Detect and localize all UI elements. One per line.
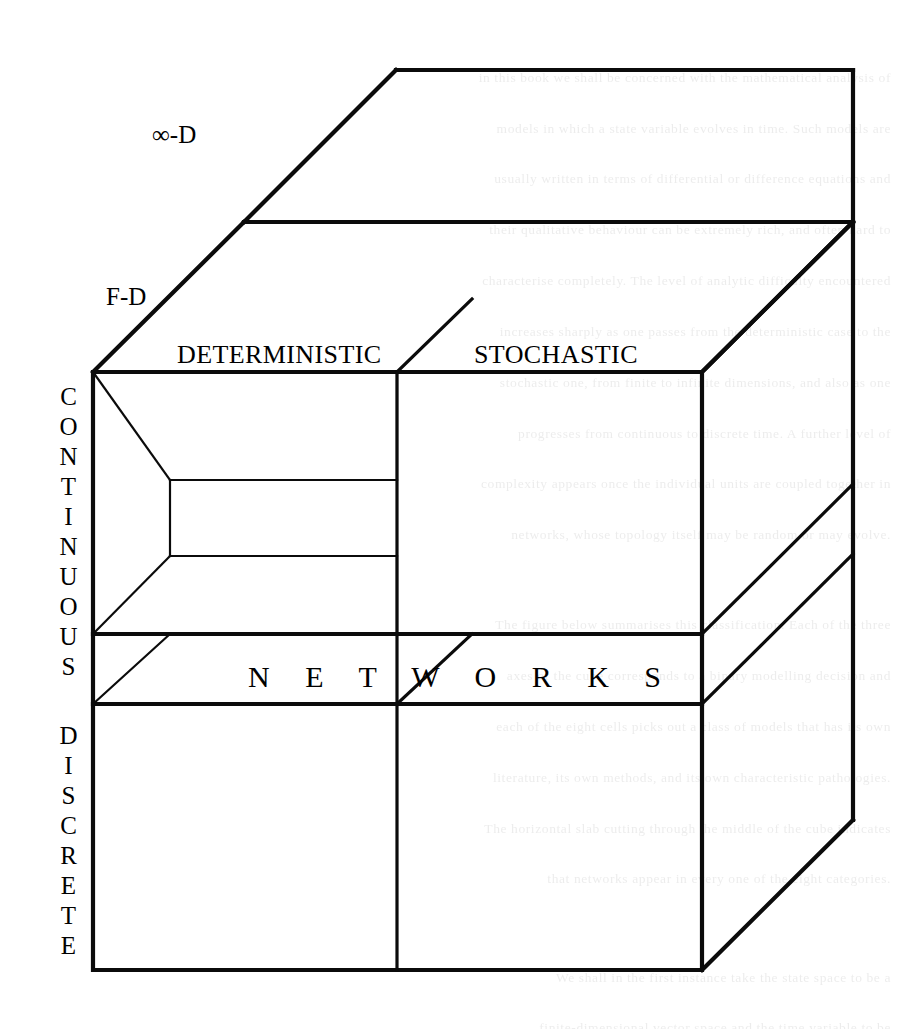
label-infinite-dimensional: ∞-D xyxy=(152,121,196,148)
infinite-d-left-receding-edge xyxy=(244,70,396,222)
divider-receding-diagonal-upper xyxy=(397,299,472,372)
label-discrete: DISCRETE xyxy=(54,722,83,962)
label-discrete-letters: DISCRETE xyxy=(54,722,83,962)
networks-band-cutaway-diagonal-left xyxy=(93,634,170,704)
networks-band-top-edge-right-face xyxy=(702,484,853,634)
interior-floor-receding-edge xyxy=(93,556,170,634)
label-finite-dimensional: F-D xyxy=(106,283,146,310)
interior-ceiling-receding-edge xyxy=(93,372,170,480)
label-networks: N E T W O R K S xyxy=(248,660,675,693)
right-face-bottom-receding-edge xyxy=(702,820,853,970)
networks-band-bottom-edge-right-face xyxy=(702,554,853,704)
cube-diagram-svg: ∞-D F-D DETERMINISTIC STOCHASTIC N E T W… xyxy=(0,0,905,1029)
label-stochastic: STOCHASTIC xyxy=(474,340,638,369)
right-face-top-receding-edge xyxy=(702,222,853,372)
label-deterministic: DETERMINISTIC xyxy=(177,340,382,369)
label-continuous-letters: CONTINUOUS xyxy=(54,383,83,683)
figure-page: in this book we shall be concerned with … xyxy=(0,0,905,1029)
label-continuous: CONTINUOUS xyxy=(54,383,83,683)
